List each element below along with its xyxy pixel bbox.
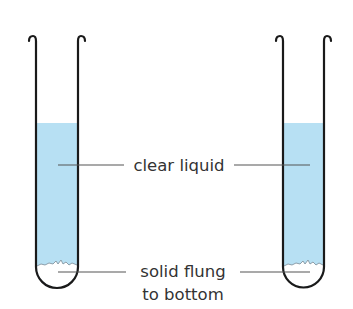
solid-label-line2: to bottom [142, 285, 224, 304]
solid-label-line1: solid flung [140, 262, 225, 281]
left-test-tube [29, 36, 85, 288]
centrifuge-diagram: clear liquid solid flung to bottom [0, 0, 353, 309]
right-test-tube [276, 36, 331, 288]
clear-liquid-label: clear liquid [133, 156, 224, 175]
